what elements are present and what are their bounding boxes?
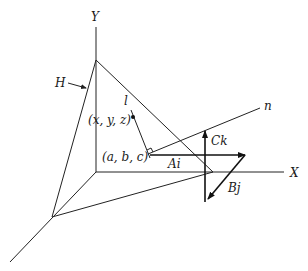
x-axis-label: X [289, 166, 299, 180]
normal-line-n [148, 108, 260, 154]
vector-ai-label: Ai [167, 157, 181, 171]
y-axis-label: Y [91, 10, 100, 24]
normal-label: n [264, 99, 272, 113]
plane-normal-diagram: Y X H l n (x, y, z) (a, b, c) Ai Ck Bj [0, 0, 308, 271]
point-abc-label: (a, b, c) [102, 150, 148, 164]
plane-pointer-arrow [68, 83, 86, 88]
plane-edge-base [52, 172, 213, 217]
point-xyz-dot [131, 115, 135, 119]
point-xyz-label: (x, y, z) [88, 113, 131, 127]
line-label: l [124, 94, 128, 108]
plane-label: H [54, 76, 66, 90]
vector-bj-label: Bj [227, 181, 241, 195]
vector-ck-label: Ck [211, 134, 227, 148]
